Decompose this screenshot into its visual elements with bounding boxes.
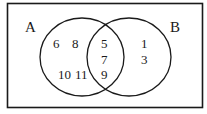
region-a-only-element: 8 — [72, 36, 79, 51]
set-b-circle — [87, 18, 171, 96]
region-intersection-element: 7 — [101, 52, 108, 67]
region-b-only-element: 1 — [141, 36, 148, 51]
region-a-only-element: 6 — [53, 36, 60, 51]
set-a-circle — [40, 18, 124, 96]
set-a-label: A — [25, 19, 36, 35]
venn-diagram: A B 6 8 10 11 5 7 9 1 3 — [0, 0, 207, 114]
region-b-only-element: 3 — [141, 52, 148, 67]
set-b-label: B — [170, 19, 180, 35]
region-intersection-element: 5 — [101, 36, 108, 51]
region-a-only-element: 11 — [75, 67, 88, 82]
region-intersection-element: 9 — [101, 67, 108, 82]
region-a-only-element: 10 — [58, 67, 71, 82]
